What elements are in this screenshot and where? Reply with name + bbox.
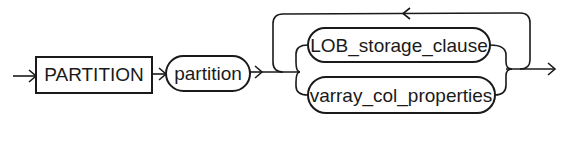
varray-col-properties-label: varray_col_properties xyxy=(310,85,493,107)
partition-keyword-box: PARTITION xyxy=(36,57,152,93)
entry-arrow xyxy=(13,70,36,82)
varray-col-properties-oval: varray_col_properties xyxy=(308,77,495,113)
connector-arrow-1 xyxy=(152,68,166,80)
partition-nonterminal-label: partition xyxy=(174,63,242,84)
partition-keyword-label: PARTITION xyxy=(44,64,144,85)
partition-nonterminal-oval: partition xyxy=(166,56,250,91)
lob-storage-clause-oval: LOB_storage_clause xyxy=(308,28,490,62)
lob-storage-clause-label: LOB_storage_clause xyxy=(310,35,487,57)
choice-branch-left xyxy=(296,45,308,95)
exit-arrow xyxy=(506,63,555,75)
syntax-diagram: PARTITION partition LOB_storage_clause v… xyxy=(0,0,563,151)
